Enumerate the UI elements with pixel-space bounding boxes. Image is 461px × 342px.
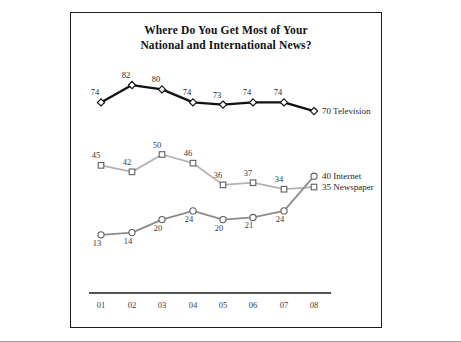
data-point-square	[281, 186, 287, 192]
series-end-label: 70 Television	[322, 106, 371, 116]
x-axis-tick-label: 01	[97, 300, 106, 310]
data-point-diamond	[249, 99, 256, 106]
data-point-square	[129, 169, 135, 175]
data-point-diamond	[219, 101, 226, 108]
x-axis-tick-label: 08	[310, 300, 319, 310]
x-axis-tick-label: 06	[249, 300, 258, 310]
data-point-square	[159, 152, 165, 158]
series-end-label: 40 Internet	[322, 171, 362, 181]
data-label: 13	[93, 238, 102, 248]
data-point-diamond	[189, 99, 196, 106]
series-television	[97, 81, 317, 114]
data-label: 74	[243, 87, 252, 97]
data-label: 20	[215, 223, 224, 233]
data-label: 24	[185, 214, 194, 224]
x-axis-tick-label: 07	[280, 300, 289, 310]
chart-plot-area: 01020304050607087482807473747470 Televis…	[71, 13, 383, 329]
data-label: 14	[124, 236, 133, 246]
data-point-square	[190, 160, 196, 166]
data-label: 82	[122, 70, 131, 80]
series-internet	[98, 173, 317, 238]
data-label: 74	[274, 87, 283, 97]
chart-frame: Where Do You Get Most of Your National a…	[70, 12, 382, 328]
data-label: 21	[245, 220, 254, 230]
x-axis-tick-label: 05	[219, 300, 228, 310]
data-point-square	[98, 163, 104, 169]
series-line	[101, 176, 314, 235]
x-axis-tick-label: 03	[158, 300, 167, 310]
data-label: 80	[152, 74, 161, 84]
data-label: 42	[123, 157, 132, 167]
data-label: 73	[213, 90, 222, 100]
data-point-circle	[311, 173, 317, 179]
data-label: 74	[183, 87, 192, 97]
data-label: 74	[91, 87, 100, 97]
data-label: 20	[154, 223, 163, 233]
data-label: 37	[244, 168, 253, 178]
data-point-diamond	[158, 86, 165, 93]
data-label: 36	[214, 170, 223, 180]
data-label: 34	[275, 174, 284, 184]
x-axis-tick-label: 02	[128, 300, 137, 310]
data-point-diamond	[310, 108, 317, 115]
data-label: 45	[92, 150, 101, 160]
data-point-diamond	[280, 99, 287, 106]
chart-page: Where Do You Get Most of Your National a…	[0, 0, 461, 342]
data-label: 50	[153, 140, 162, 150]
data-point-square	[250, 180, 256, 186]
data-point-square	[220, 182, 226, 188]
data-label: 24	[276, 214, 285, 224]
x-axis-tick-label: 04	[189, 300, 198, 310]
data-point-square	[311, 184, 317, 190]
series-end-label: 35 Newspaper	[322, 182, 374, 192]
data-label: 46	[184, 148, 193, 158]
